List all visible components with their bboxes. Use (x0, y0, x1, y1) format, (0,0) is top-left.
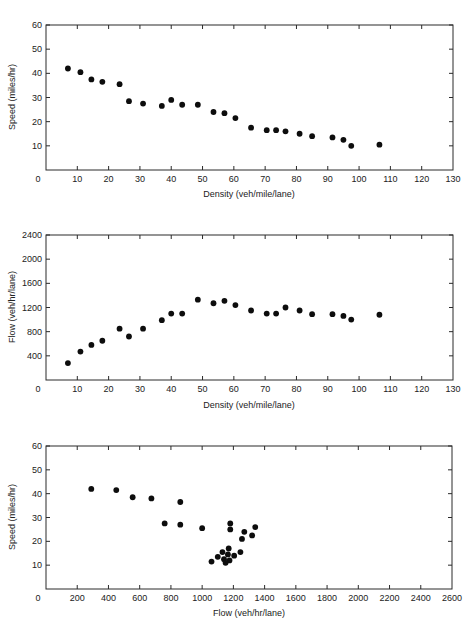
x-tick-label: 1800 (317, 593, 337, 603)
data-point (239, 536, 245, 542)
x-axis-title: Flow (veh/hr/lane) (213, 608, 285, 618)
x-tick-label: 1600 (286, 593, 306, 603)
x-tick-label: 2200 (380, 593, 400, 603)
data-point (88, 486, 94, 492)
data-point (209, 559, 215, 565)
data-point (231, 553, 237, 559)
x-tick-label: 1400 (255, 593, 275, 603)
x-tick-label: 1200 (223, 593, 243, 603)
x-ticks: 0200400600800100012001400160018002000220… (35, 446, 462, 603)
x-tick-label: 400 (101, 593, 116, 603)
y-axis-title: Speed (miles/hr) (7, 484, 17, 550)
data-point (226, 546, 232, 552)
x-tick-label: 600 (132, 593, 147, 603)
x-tick-label: 800 (163, 593, 178, 603)
data-point (249, 532, 255, 538)
x-tick-label: 2400 (411, 593, 431, 603)
x-tick-label: 200 (70, 593, 85, 603)
data-point (162, 521, 168, 527)
data-point (149, 496, 155, 502)
y-tick-label: 30 (32, 513, 42, 523)
data-point (130, 494, 136, 500)
data-point (241, 529, 247, 535)
y-tick-label: 60 (32, 441, 42, 451)
speed-flow-chart: 102030405060 020040060080010001200140016… (0, 0, 469, 621)
x-tick-label: 1000 (192, 593, 212, 603)
data-point (215, 554, 221, 560)
x-tick-label: 2000 (348, 593, 368, 603)
data-point (227, 527, 233, 533)
data-point (177, 522, 183, 528)
x-tick-label: 2600 (442, 593, 462, 603)
data-point (199, 525, 205, 531)
data-point (223, 560, 229, 566)
data-point (113, 487, 119, 493)
data-point (238, 549, 244, 555)
y-tick-label: 10 (32, 560, 42, 570)
y-tick-label: 20 (32, 536, 42, 546)
data-point (252, 524, 258, 530)
x-tick-label: 0 (35, 593, 40, 603)
data-point (227, 521, 233, 527)
data-point (225, 552, 231, 558)
y-tick-label: 40 (32, 489, 42, 499)
y-tick-label: 50 (32, 465, 42, 475)
data-points (88, 486, 258, 566)
data-point (177, 499, 183, 505)
data-point (220, 549, 226, 555)
plot-frame (46, 446, 452, 589)
